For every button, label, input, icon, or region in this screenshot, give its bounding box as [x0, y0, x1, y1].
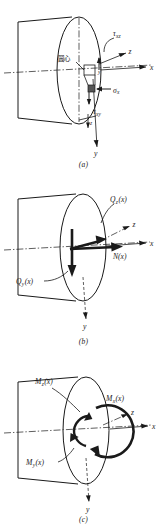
axis-y-arrowhead	[86, 495, 91, 502]
axis-x-arrowhead	[141, 424, 148, 429]
axis-y-label: y	[93, 149, 98, 158]
sigma-x-label: σx	[113, 86, 120, 96]
axis-y-label: y	[85, 505, 90, 514]
axis-z-label: z	[128, 47, 132, 56]
caption-b: (b)	[0, 337, 167, 346]
panel-b-internal-forces: x z y N(x) Qz(x) Qy(x)	[0, 177, 167, 354]
engineering-figure: x z y z 圆心	[0, 0, 167, 530]
cylinder-bottom-line	[18, 118, 72, 124]
axis-z-arrowhead	[118, 53, 126, 57]
bending-moment-z-leader	[52, 388, 80, 412]
axis-z-label: z	[130, 408, 134, 417]
stress-element-face	[88, 85, 95, 92]
element-y-label: y	[97, 69, 101, 75]
axis-x-label: x	[149, 239, 154, 248]
bending-moment-y-leader	[58, 448, 74, 462]
shear-force-y-arrowhead	[68, 265, 77, 277]
stress-element-edge-1	[84, 75, 88, 85]
axis-centerline	[4, 425, 152, 433]
cross-section-ellipse	[63, 377, 109, 484]
axis-x-label: x	[151, 422, 156, 431]
axis-y-arrowhead	[83, 312, 88, 319]
axis-x-arrowhead	[139, 241, 146, 246]
caption-c: (c)	[0, 515, 167, 524]
bending-moment-y-label: My(x)	[25, 458, 44, 468]
torsional-moment-arc	[95, 405, 134, 457]
axis-y-label: y	[82, 322, 87, 331]
tau-xz-leader	[104, 38, 114, 52]
panel-c-internal-moments: x z y Mx(x) Mz(x) My(x)	[0, 354, 167, 530]
caption-a: (a)	[0, 160, 167, 169]
cylinder-bottom-line	[18, 478, 78, 484]
bending-moment-z-label: Mz(x)	[34, 377, 53, 387]
z-offset-label: z	[89, 120, 93, 126]
cylinder-top-line	[18, 194, 76, 199]
tau-xy-label: τxy	[93, 107, 101, 117]
center-label: 圆心	[58, 55, 71, 63]
cylinder-top-line	[18, 17, 72, 22]
stress-element-box	[84, 65, 95, 75]
axis-x-label: x	[149, 63, 154, 72]
axis-z-label: z	[132, 220, 136, 229]
shear-force-z-label: Qz(x)	[110, 195, 127, 205]
tau-xy-arrowhead	[87, 99, 91, 105]
axis-y-arrowhead	[94, 140, 99, 147]
shear-force-y-label: Qy(x)	[16, 277, 34, 287]
axis-centerline	[4, 65, 152, 73]
panel-a-stress-components: x z y z 圆心	[0, 0, 167, 177]
torsional-moment-label: Mx(x)	[105, 394, 124, 404]
tau-xz-label: τxz	[113, 29, 121, 39]
normal-force-label: N(x)	[112, 252, 127, 261]
cylinder-bottom-line	[18, 295, 76, 301]
